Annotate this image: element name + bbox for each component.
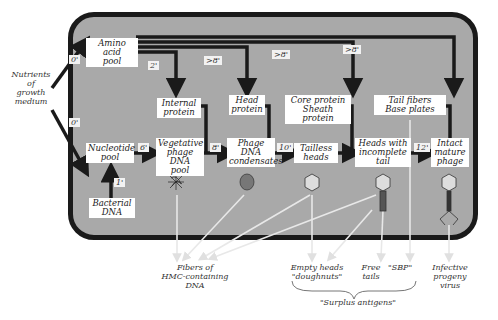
time-label-head: >8': [204, 56, 222, 65]
time-label-bacterial-dna: 1': [114, 178, 125, 187]
head-icon: [305, 174, 458, 225]
empty-heads: Empty heads "doughnuts": [290, 263, 344, 281]
time-label-veg-dna: 6': [138, 143, 149, 152]
dna-condensate-icon: [240, 174, 254, 190]
time-label-intact: 12': [414, 143, 430, 152]
fibers-hmc-dna: Fibers of HMC-containing DNA: [160, 263, 230, 290]
tailless-heads: Tailless heads: [294, 143, 338, 163]
infective-progeny-virus: Infective progeny virus: [430, 263, 470, 290]
tail-fibers-base-plates: Tail fibers Base plates: [374, 95, 446, 115]
nucleotide-pool: Nucleotide pool: [86, 143, 134, 163]
dna-tangle-icon: [168, 174, 184, 190]
time-label-amino: 0': [69, 55, 80, 64]
nutrients-label: Nutrients of growth medium: [2, 70, 60, 106]
internal-protein: Internal protein: [157, 98, 201, 118]
time-label-tail: >8': [343, 45, 361, 54]
time-label-tailless: 10': [277, 143, 293, 152]
heads-incomplete-tail: Heads with incomplete tail: [355, 138, 411, 167]
core-sheath-protein: Core protein Sheath protein: [285, 95, 351, 124]
time-label-core: >8': [272, 50, 290, 59]
time-label-internal: 2': [148, 61, 159, 70]
phage-dna-condensates: Phage DNA condensates: [227, 138, 275, 167]
free-tails: Free tails: [358, 263, 384, 281]
vegetative-phage-dna-pool: Vegetative phage DNA pool: [156, 138, 204, 176]
amino-acid-pool: Amino acid pool: [86, 38, 138, 67]
time-label-condensates: 8': [210, 143, 221, 152]
surplus-antigens: "Surplus antigens": [318, 298, 398, 307]
intact-mature-phage: Intact mature phage: [431, 138, 469, 167]
head-protein: Head protein: [229, 95, 265, 115]
sbp: "SBP": [388, 263, 412, 272]
time-label-nucleotide: 0': [69, 118, 80, 127]
bacterial-dna: Bacterial DNA: [89, 198, 135, 218]
